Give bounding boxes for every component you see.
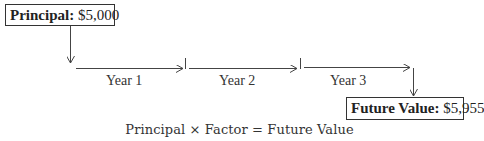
future-value-label: Future Value: [351,100,439,116]
principal-value: $5,000 [78,7,119,23]
year-3-label: Year 3 [330,73,366,89]
principal-label: Principal: [10,7,74,23]
principal-box: Principal: $5,000 [5,4,115,26]
future-value-amount: $5,955 [443,100,484,116]
formula-caption: Principal × Factor = Future Value [0,122,479,137]
year-2-label: Year 2 [219,73,255,89]
future-value-box: Future Value: $5,955 [346,97,464,120]
year-1-label: Year 1 [106,73,142,89]
